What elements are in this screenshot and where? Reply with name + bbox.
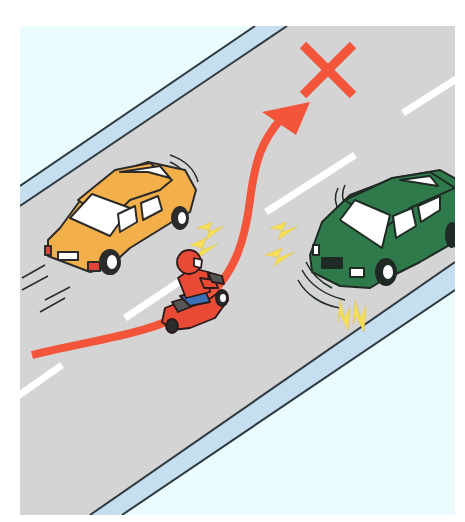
- traffic-illustration: [0, 0, 465, 522]
- illustration-canvas: [0, 0, 465, 522]
